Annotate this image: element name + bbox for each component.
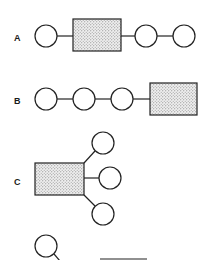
panel-b: B — [14, 83, 197, 115]
circle-node — [173, 25, 195, 47]
connector-line — [54, 254, 60, 260]
circle-node — [99, 167, 121, 189]
circle-node — [92, 132, 114, 154]
panel-c: C — [14, 132, 121, 225]
diagram-canvas: A B C — [0, 0, 217, 260]
panel-label-a: A — [14, 33, 21, 43]
stippled-rectangle — [35, 163, 84, 195]
panel-label-b: B — [14, 96, 21, 106]
connector-line — [84, 195, 95, 206]
stippled-rectangle — [73, 19, 121, 51]
circle-node — [35, 235, 57, 257]
circle-node — [35, 88, 57, 110]
circle-node — [135, 25, 157, 47]
connector-line — [84, 151, 95, 163]
stippled-rectangle — [150, 83, 197, 115]
panel-label-c: C — [14, 177, 21, 187]
circle-node — [92, 203, 114, 225]
circle-node — [73, 88, 95, 110]
panel-a: A — [14, 19, 195, 51]
circle-node — [35, 25, 57, 47]
circle-node — [111, 88, 133, 110]
partial-panel — [35, 235, 147, 260]
